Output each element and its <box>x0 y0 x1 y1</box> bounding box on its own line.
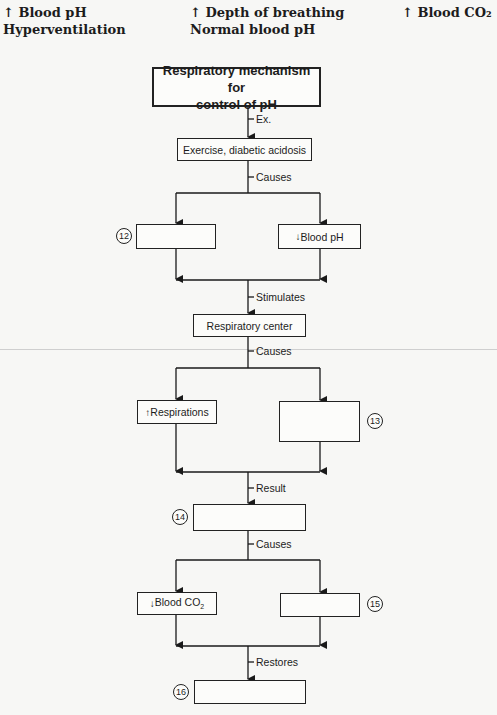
blank-number-14: 14 <box>172 509 188 525</box>
blank-number-13: 13 <box>367 413 383 429</box>
edge-label-causes-2: Causes <box>256 345 292 357</box>
blank-box-13[interactable] <box>279 401 360 442</box>
node-blood-co2-text: Blood CO2 <box>155 596 204 610</box>
edge-label-causes-3: Causes <box>256 538 292 550</box>
node-blood-ph-decrease: ↓ Blood pH <box>278 224 361 249</box>
node-blood-ph-text: Blood pH <box>300 231 343 243</box>
node-blood-co2-subscript: 2 <box>200 604 204 611</box>
node-respirations-text: Respirations <box>150 406 208 418</box>
edge-label-stimulates: Stimulates <box>256 291 305 303</box>
edge-label-ex: Ex. <box>256 113 271 125</box>
blank-box-15[interactable] <box>280 593 360 617</box>
blank-number-12: 12 <box>116 228 132 244</box>
diagram-title-line1: Respiratory mechanism for <box>154 62 319 96</box>
blank-box-14[interactable] <box>193 504 306 531</box>
blank-box-16[interactable] <box>194 680 306 704</box>
edge-label-result: Result <box>256 482 286 494</box>
edge-label-causes-1: Causes <box>256 171 292 183</box>
node-blood-co2-decrease: ↓ Blood CO2 <box>137 592 217 615</box>
node-respiratory-center: Respiratory center <box>193 314 306 337</box>
node-respirations-increase: ↑ Respirations <box>137 400 217 424</box>
diagram-title-line2: control of pH <box>196 96 277 113</box>
edge-label-restores: Restores <box>256 656 298 668</box>
node-exercise-text: Exercise, diabetic acidosis <box>183 144 306 156</box>
diagram-title-box: Respiratory mechanism for control of pH <box>152 67 321 107</box>
node-respiratory-center-text: Respiratory center <box>207 320 293 332</box>
node-blood-co2-label: Blood CO <box>155 596 201 608</box>
blank-number-15: 15 <box>367 596 383 612</box>
blank-number-16: 16 <box>173 684 189 700</box>
blank-box-12[interactable] <box>136 224 216 249</box>
node-exercise-diabetic-acidosis: Exercise, diabetic acidosis <box>177 138 312 161</box>
